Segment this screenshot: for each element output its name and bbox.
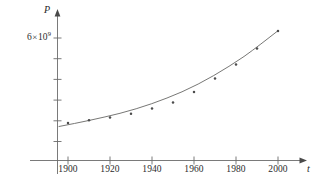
x-axis-label: t: [307, 163, 310, 174]
x-axis-tick-label-2000: 2000: [258, 164, 298, 174]
data-point: [235, 63, 238, 66]
x-axis-tick-label-1900: 1900: [48, 164, 88, 174]
data-point: [88, 119, 91, 122]
x-axis-tick-label-1980: 1980: [216, 164, 256, 174]
data-point: [151, 107, 154, 110]
data-point: [67, 122, 70, 125]
data-point: [130, 113, 133, 116]
x-axis-tick-label-1960: 1960: [174, 164, 214, 174]
data-point: [172, 101, 175, 104]
data-point: [193, 91, 196, 94]
data-point: [109, 116, 112, 119]
data-point: [214, 77, 217, 80]
y-tick-exponent: 9: [48, 30, 51, 37]
x-axis-tick-label-1940: 1940: [132, 164, 172, 174]
exponential-fit-curve: [59, 32, 277, 127]
x-axis-arrowhead-icon: [300, 158, 308, 164]
data-point: [277, 30, 280, 33]
y-axis-arrowhead-icon: [55, 9, 61, 17]
data-point: [256, 47, 259, 50]
x-axis-tick-label-1920: 1920: [90, 164, 130, 174]
population-growth-chart-figure: P t 6×109 1900 1920 1940 1960 1980 2000: [0, 0, 319, 193]
y-tick-base: 10: [38, 32, 48, 42]
y-axis-label: P: [44, 4, 50, 15]
y-axis-tick-label: 6×109: [0, 32, 51, 42]
